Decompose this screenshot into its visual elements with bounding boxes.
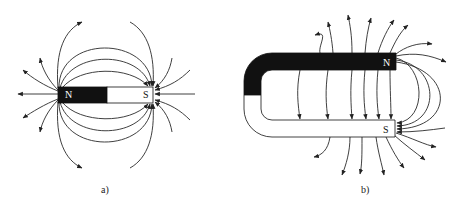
bar-south-label: S: [143, 89, 149, 100]
caption-b: b): [361, 184, 369, 196]
horseshoe-north-arm: [244, 53, 396, 95]
caption-a: a): [101, 184, 109, 196]
horseshoe-south-label: S: [383, 124, 389, 135]
horseshoe-south-arm: [244, 95, 395, 137]
field-lines-b: [298, 15, 446, 175]
magnetic-field-diagrams: N S a): [0, 0, 461, 210]
horseshoe-north-label: N: [383, 57, 390, 68]
bar-magnet-figure: N S a): [18, 22, 195, 196]
bar-north-label: N: [65, 89, 72, 100]
horseshoe-magnet-figure: N S b): [244, 15, 446, 196]
